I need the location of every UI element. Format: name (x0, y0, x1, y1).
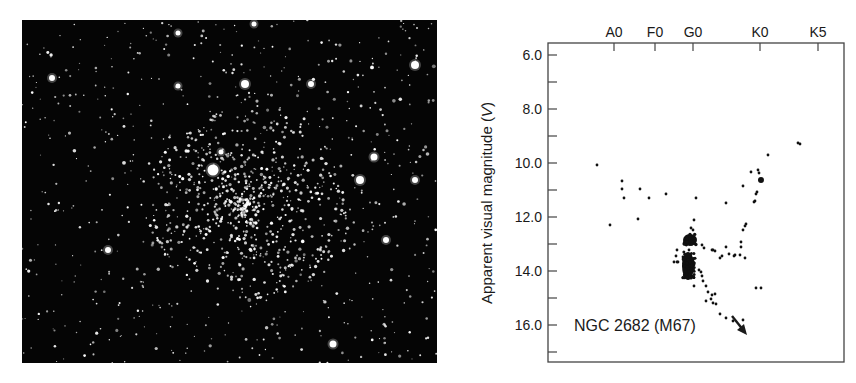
data-point (755, 193, 758, 196)
hr-diagram-panel: 6.08.010.012.014.016.0 A0F0G0K0K5 Appare… (460, 0, 856, 383)
hr-diagram-chart: 6.08.010.012.014.016.0 A0F0G0K0K5 Appare… (460, 0, 856, 383)
data-point (698, 269, 701, 272)
data-point (693, 219, 696, 222)
data-point (712, 302, 715, 305)
data-point (721, 255, 724, 258)
data-point (744, 257, 747, 260)
data-point (742, 229, 745, 232)
data-point (665, 193, 668, 196)
data-point (744, 225, 747, 228)
data-point (714, 293, 717, 296)
y-tick-label: 16.0 (515, 317, 542, 333)
star-field-image (22, 20, 437, 363)
data-point (702, 280, 705, 283)
data-point (676, 249, 679, 252)
data-point (623, 197, 626, 200)
star-cluster-photo (22, 20, 437, 363)
data-point (750, 171, 753, 174)
x-tick-label: F0 (647, 24, 664, 40)
data-point (639, 188, 642, 191)
data-point (757, 169, 760, 172)
data-point (690, 227, 693, 230)
data-point (742, 319, 745, 322)
annotation-text: NGC 2682 (M67) (574, 317, 696, 334)
cluster-annotation: NGC 2682 (M67) (574, 316, 747, 335)
y-tick-label: 14.0 (515, 263, 542, 279)
y-axis-ticks: 6.08.010.012.014.016.0 (515, 47, 557, 352)
data-point (742, 185, 745, 188)
data-point (705, 285, 708, 288)
data-point (701, 244, 704, 247)
data-point (799, 143, 802, 146)
data-point (725, 202, 728, 205)
x-tick-label: G0 (684, 24, 703, 40)
data-point (755, 287, 758, 290)
data-point (701, 275, 704, 278)
data-point (693, 285, 696, 288)
data-points (596, 142, 802, 323)
y-tick-label: 12.0 (515, 209, 542, 225)
data-point (596, 164, 599, 167)
data-point (753, 201, 756, 204)
data-point (710, 298, 713, 301)
data-point (621, 180, 624, 183)
x-axis-ticks: A0F0G0K0K5 (605, 24, 826, 51)
data-point (695, 197, 698, 200)
y-tick-label: 8.0 (523, 101, 543, 117)
data-point (725, 246, 728, 249)
y-tick-label: 6.0 (523, 47, 543, 63)
data-point (692, 229, 695, 232)
x-tick-label: A0 (605, 24, 622, 40)
data-point (728, 253, 731, 256)
data-point (714, 250, 717, 253)
data-point (673, 261, 676, 264)
data-point (648, 197, 651, 200)
data-point (675, 255, 678, 258)
x-tick-label: K0 (751, 24, 768, 40)
data-point (703, 247, 706, 250)
y-axis-label: Apparent visual magnitude (V) (478, 102, 495, 304)
data-point (740, 241, 743, 244)
data-point (758, 172, 761, 175)
data-point (715, 303, 718, 306)
data-point (688, 249, 691, 252)
data-point (767, 154, 770, 157)
data-point (719, 313, 722, 316)
data-point (700, 271, 703, 274)
data-point (609, 224, 612, 227)
data-point (725, 317, 728, 320)
data-point (739, 254, 742, 257)
data-point (740, 246, 743, 249)
dense-point-cluster (758, 177, 764, 183)
data-point (621, 188, 624, 191)
arrow-icon (732, 316, 747, 335)
x-tick-label: K5 (809, 24, 826, 40)
data-point (705, 300, 708, 303)
data-point (677, 261, 680, 264)
data-point (760, 287, 763, 290)
data-point (719, 257, 722, 260)
plot-frame (548, 43, 844, 362)
data-point (637, 218, 640, 221)
data-point (707, 291, 710, 294)
data-point (734, 254, 737, 257)
data-point (711, 294, 714, 297)
y-tick-label: 10.0 (515, 155, 542, 171)
